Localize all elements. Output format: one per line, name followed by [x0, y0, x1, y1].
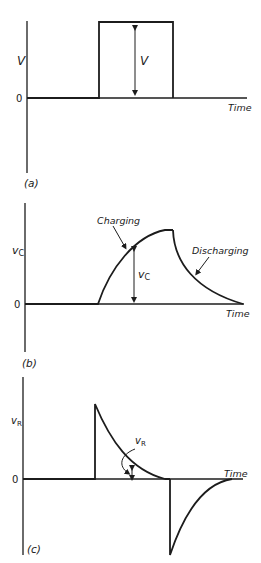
- panel-b-caption: (b): [22, 357, 37, 369]
- panel-b-capacitor-voltage: vC 0 vC Charging Discharging Time (b): [12, 203, 250, 369]
- panel-a-x-label: Time: [228, 102, 252, 113]
- panel-c-vr-annotation: vR: [135, 435, 146, 448]
- panel-b-charging-label: Charging: [97, 215, 140, 226]
- panel-c-x-label: Time: [224, 468, 248, 479]
- rc-circuit-waveforms-diagram: V 0 V Time (a) vC 0 vC Charging Discharg…: [0, 0, 261, 563]
- panel-b-y-label: vC: [12, 244, 25, 258]
- panel-a-input-pulse: V 0 V Time (a): [16, 21, 252, 189]
- panel-c-y-label: vR: [11, 415, 22, 428]
- panel-b-vc-annotation: vC: [138, 268, 151, 282]
- panel-b-charging-pointer: [113, 226, 125, 247]
- panel-b-x-label: Time: [226, 308, 250, 319]
- panel-b-discharging-label: Discharging: [192, 245, 249, 256]
- panel-a-pulse-waveform: [27, 22, 173, 98]
- panel-c-positive-spike: [23, 404, 170, 479]
- panel-c-negative-spike: [170, 479, 232, 555]
- panel-c-resistor-voltage: vR 0 vR Time (c): [11, 377, 248, 555]
- panel-a-amplitude-label: V: [140, 54, 149, 68]
- panel-c-caption: (c): [27, 543, 41, 555]
- panel-b-zero-label: 0: [14, 299, 20, 310]
- panel-c-zero-label: 0: [12, 474, 18, 485]
- panel-a-y-label: V: [17, 54, 26, 68]
- panel-b-discharging-curve: [173, 230, 243, 304]
- panel-a-zero-label: 0: [16, 93, 22, 104]
- panel-b-charging-curve: [25, 230, 173, 304]
- panel-a-caption: (a): [24, 177, 39, 189]
- panel-b-discharging-pointer: [197, 257, 209, 273]
